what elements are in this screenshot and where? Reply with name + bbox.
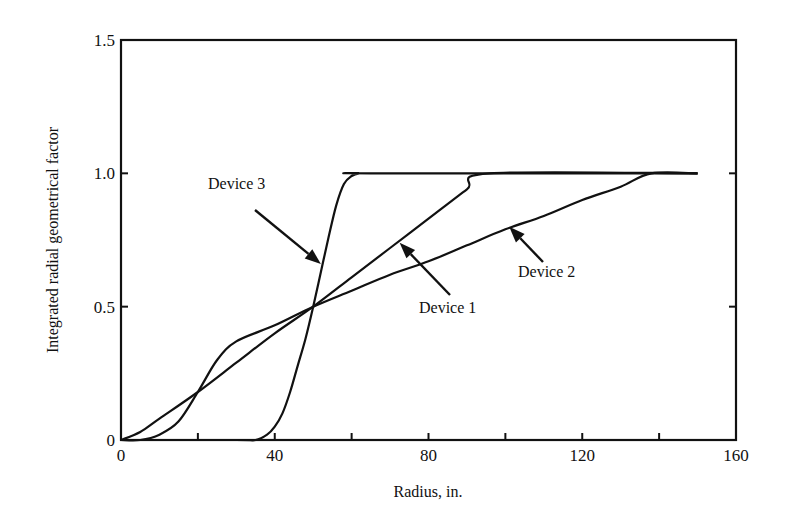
arrow-icon-device-2 (509, 227, 543, 262)
chart: 0408012016000.51.01.5 Radius, in. Integr… (0, 0, 786, 527)
x-tick-label: 80 (420, 446, 437, 465)
annotation-device-3: Device 3 (208, 175, 265, 192)
y-tick-label: 0.5 (94, 298, 115, 317)
y-axis-title: Integrated radial geometrical factor (44, 126, 62, 353)
y-tick-label: 1.5 (94, 31, 115, 50)
x-tick-label: 40 (266, 446, 283, 465)
arrow-icon-device-3 (255, 210, 321, 264)
data-series (121, 172, 698, 440)
annotation-device-2: Device 2 (518, 263, 575, 280)
y-tick-label: 0 (107, 431, 116, 450)
annotation-arrows (255, 210, 543, 295)
series-device-3 (121, 173, 698, 440)
x-tick-label: 120 (570, 446, 596, 465)
x-tick-label: 0 (117, 446, 126, 465)
x-axis-title: Radius, in. (394, 483, 463, 500)
y-tick-label: 1.0 (94, 164, 115, 183)
series-device-1 (121, 172, 698, 440)
x-tick-label: 160 (723, 446, 749, 465)
annotation-device-1: Device 1 (419, 299, 476, 316)
series-device-2 (121, 172, 698, 440)
